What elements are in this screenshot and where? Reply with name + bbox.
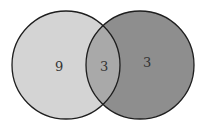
right-only-count: 3 — [143, 55, 151, 70]
venn-diagram: 9 3 3 — [0, 0, 203, 127]
left-only-count: 9 — [55, 59, 63, 74]
intersection-count: 3 — [100, 59, 108, 74]
